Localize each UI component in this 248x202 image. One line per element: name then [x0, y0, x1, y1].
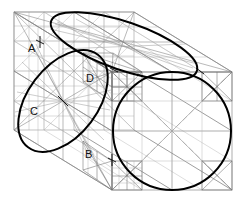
label-a: A — [28, 42, 36, 54]
label-b: B — [85, 148, 92, 160]
figure-canvas: A D C B — [0, 0, 248, 202]
label-d: D — [86, 72, 94, 84]
geometry-figure: A D C B — [0, 0, 248, 202]
label-c: C — [30, 105, 38, 117]
